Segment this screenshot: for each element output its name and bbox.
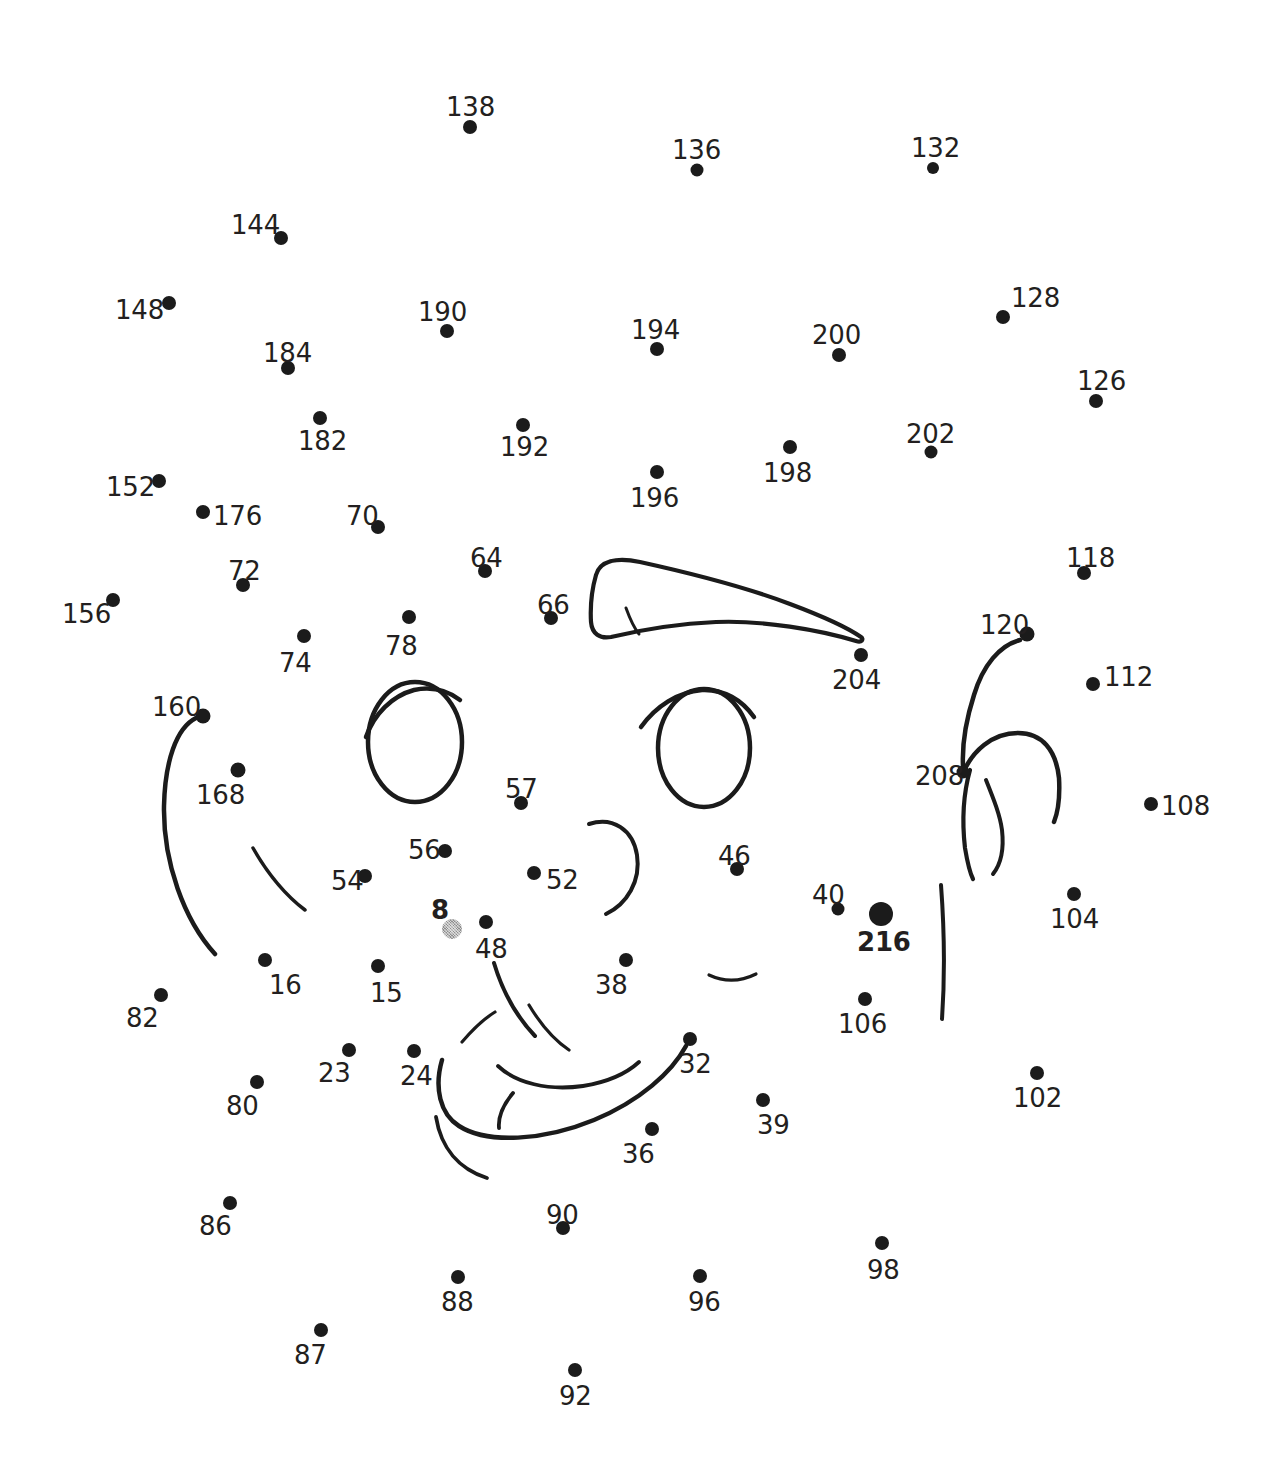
dot-label-80: 80 xyxy=(226,1093,259,1119)
dot-label-192: 192 xyxy=(500,434,549,460)
dot-marker-23[interactable] xyxy=(342,1043,356,1057)
dot-label-136: 136 xyxy=(672,137,721,163)
dot-marker-74[interactable] xyxy=(297,629,311,643)
dot-label-104: 104 xyxy=(1050,906,1099,932)
dot-marker-80[interactable] xyxy=(250,1075,264,1089)
dot-marker-148[interactable] xyxy=(162,296,176,310)
dot-label-106: 106 xyxy=(838,1011,887,1037)
dot-label-40: 40 xyxy=(812,882,845,908)
dot-marker-168[interactable] xyxy=(231,763,246,778)
dot-marker-108[interactable] xyxy=(1144,797,1158,811)
dot-label-112: 112 xyxy=(1104,664,1153,690)
dot-label-96: 96 xyxy=(688,1289,721,1315)
dot-label-102: 102 xyxy=(1013,1085,1062,1111)
dot-label-46: 46 xyxy=(718,843,751,869)
dot-label-126: 126 xyxy=(1077,368,1126,394)
dot-marker-16[interactable] xyxy=(258,953,272,967)
dot-label-86: 86 xyxy=(199,1213,232,1239)
dot-marker-24[interactable] xyxy=(407,1044,421,1058)
dot-label-70: 70 xyxy=(346,503,379,529)
dot-marker-112[interactable] xyxy=(1086,677,1100,691)
dot-label-196: 196 xyxy=(630,485,679,511)
dot-label-88: 88 xyxy=(441,1289,474,1315)
dot-label-182: 182 xyxy=(298,428,347,454)
dot-marker-192[interactable] xyxy=(516,418,530,432)
dot-label-190: 190 xyxy=(418,299,467,325)
dot-label-92: 92 xyxy=(559,1383,592,1409)
dot-label-8: 8 xyxy=(431,897,449,923)
dot-label-90: 90 xyxy=(546,1202,579,1228)
dot-label-78: 78 xyxy=(385,633,418,659)
dot-marker-39[interactable] xyxy=(756,1093,770,1107)
dot-label-98: 98 xyxy=(867,1257,900,1283)
dot-label-194: 194 xyxy=(631,317,680,343)
dot-label-152: 152 xyxy=(106,474,155,500)
dot-marker-198[interactable] xyxy=(783,440,797,454)
dot-label-24: 24 xyxy=(400,1063,433,1089)
dot-label-128: 128 xyxy=(1011,285,1060,311)
dot-label-64: 64 xyxy=(470,545,503,571)
dot-label-39: 39 xyxy=(757,1112,790,1138)
dot-label-74: 74 xyxy=(279,650,312,676)
dot-label-168: 168 xyxy=(196,782,245,808)
dot-label-52: 52 xyxy=(546,867,579,893)
dot-label-87: 87 xyxy=(294,1342,327,1368)
dot-marker-196[interactable] xyxy=(650,465,664,479)
dot-label-57: 57 xyxy=(505,776,538,802)
dot-marker-32[interactable] xyxy=(683,1032,697,1046)
dot-marker-87[interactable] xyxy=(314,1323,328,1337)
puzzle-canvas: 1381361321441481281901942001841261821922… xyxy=(0,0,1277,1462)
dot-marker-182[interactable] xyxy=(313,411,327,425)
dot-label-38: 38 xyxy=(595,972,628,998)
dot-marker-52[interactable] xyxy=(527,866,541,880)
dot-marker-78[interactable] xyxy=(402,610,416,624)
dot-label-208: 208 xyxy=(915,763,964,789)
dot-label-118: 118 xyxy=(1066,545,1115,571)
dot-marker-138[interactable] xyxy=(463,120,477,134)
dot-label-160: 160 xyxy=(152,694,201,720)
dot-label-144: 144 xyxy=(231,212,280,238)
dot-marker-82[interactable] xyxy=(154,988,168,1002)
dot-label-54: 54 xyxy=(331,868,364,894)
dot-marker-204[interactable] xyxy=(854,648,868,662)
dot-label-184: 184 xyxy=(263,340,312,366)
dot-label-48: 48 xyxy=(475,936,508,962)
dot-label-138: 138 xyxy=(446,94,495,120)
dot-label-198: 198 xyxy=(763,460,812,486)
dot-marker-104[interactable] xyxy=(1067,887,1081,901)
dot-label-36: 36 xyxy=(622,1141,655,1167)
dot-label-202: 202 xyxy=(906,421,955,447)
dot-marker-38[interactable] xyxy=(619,953,633,967)
dot-label-204: 204 xyxy=(832,667,881,693)
dot-marker-92[interactable] xyxy=(568,1363,582,1377)
dot-label-16: 16 xyxy=(269,972,302,998)
dot-label-132: 132 xyxy=(911,135,960,161)
dot-layer: 1381361321441481281901942001841261821922… xyxy=(0,0,1277,1462)
dot-marker-128[interactable] xyxy=(996,310,1010,324)
dot-label-148: 148 xyxy=(115,297,164,323)
dot-marker-96[interactable] xyxy=(693,1269,707,1283)
dot-label-23: 23 xyxy=(318,1060,351,1086)
dot-marker-176[interactable] xyxy=(196,505,210,519)
dot-label-82: 82 xyxy=(126,1005,159,1031)
dot-label-72: 72 xyxy=(228,558,261,584)
dot-label-176: 176 xyxy=(213,503,262,529)
dot-marker-106[interactable] xyxy=(858,992,872,1006)
dot-label-200: 200 xyxy=(812,322,861,348)
dot-marker-88[interactable] xyxy=(451,1270,465,1284)
dot-label-108: 108 xyxy=(1161,793,1210,819)
dot-marker-86[interactable] xyxy=(223,1196,237,1210)
dot-marker-15[interactable] xyxy=(371,959,385,973)
dot-marker-132[interactable] xyxy=(927,162,939,174)
dot-marker-216[interactable] xyxy=(869,902,893,926)
dot-marker-102[interactable] xyxy=(1030,1066,1044,1080)
dot-marker-126[interactable] xyxy=(1089,394,1103,408)
dot-marker-36[interactable] xyxy=(645,1122,659,1136)
dot-label-216: 216 xyxy=(857,929,911,955)
dot-label-120: 120 xyxy=(980,612,1029,638)
dot-marker-48[interactable] xyxy=(479,915,493,929)
dot-marker-200[interactable] xyxy=(832,348,846,362)
dot-marker-136[interactable] xyxy=(691,164,704,177)
dot-marker-98[interactable] xyxy=(875,1236,889,1250)
dot-label-66: 66 xyxy=(537,592,570,618)
